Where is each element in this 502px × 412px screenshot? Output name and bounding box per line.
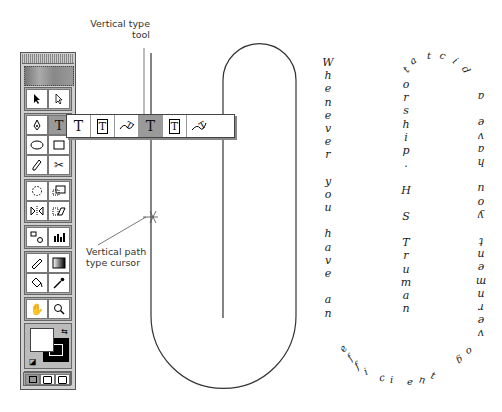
hollow-arrow-icon: [54, 93, 64, 105]
rotate-tool[interactable]: [26, 181, 48, 201]
type-tool-flyout: T T T T T T: [66, 114, 235, 138]
graph-tool[interactable]: [48, 227, 70, 247]
flyout-vertical-type-tool[interactable]: T: [139, 115, 163, 137]
arrow-icon: [32, 93, 42, 105]
color-swatches: ⇆ ◪: [24, 323, 72, 369]
ruler-icon: [30, 257, 44, 269]
drawing-group: T ✂: [24, 113, 72, 177]
flyout-vertical-area-type-tool[interactable]: T: [163, 115, 187, 137]
eyedropper-icon: [52, 277, 66, 289]
blend-icon: [30, 231, 44, 243]
pen-icon: [32, 119, 42, 131]
scissors-tool[interactable]: ✂: [48, 155, 70, 175]
direct-selection-tool[interactable]: [48, 89, 70, 109]
eyedropper-tool[interactable]: [48, 273, 70, 293]
pencil-icon: [32, 159, 42, 171]
selection-tool[interactable]: [26, 89, 48, 109]
measure-tool[interactable]: [26, 253, 48, 273]
vertical-type-icon: T: [146, 118, 155, 134]
default-colors-icon[interactable]: ◪: [29, 357, 37, 366]
type-icon: T: [55, 118, 64, 133]
full-screen-mode-button[interactable]: [55, 374, 70, 385]
app-logo: [24, 66, 74, 86]
toolbox-title-bar[interactable]: [22, 54, 74, 64]
ellipse-tool[interactable]: [26, 135, 48, 155]
path-type-icon: T: [119, 119, 135, 133]
paint-group: [24, 251, 72, 295]
scale-tool[interactable]: [48, 181, 70, 201]
svg-text:T: T: [197, 120, 207, 132]
reflect-tool[interactable]: [26, 201, 48, 221]
paint-bucket-icon: [30, 277, 44, 289]
fill-swatch[interactable]: [30, 328, 54, 352]
text-left-column: Whenever youhavean: [321, 56, 335, 320]
view-group: ✋: [24, 297, 72, 321]
gradient-tool[interactable]: [48, 253, 70, 273]
rectangle-icon: [53, 140, 65, 150]
hand-icon: ✋: [30, 303, 44, 316]
u-path[interactable]: [151, 44, 296, 389]
blend-tool[interactable]: [26, 227, 48, 247]
standard-screen-mode-button[interactable]: [25, 374, 40, 385]
swap-colors-icon[interactable]: ⇆: [61, 327, 68, 336]
paint-bucket-tool[interactable]: [26, 273, 48, 293]
shear-icon: [52, 205, 66, 217]
callout-vertical-type-tool: Vertical type tool: [88, 18, 150, 40]
toolbox-panel: T ✂: [20, 52, 76, 390]
hand-tool[interactable]: ✋: [26, 299, 48, 319]
gradient-icon: [52, 257, 66, 269]
flyout-path-type-tool[interactable]: T: [115, 115, 139, 137]
callout-leader-cursor: [98, 217, 146, 245]
zoom-tool[interactable]: [48, 299, 70, 319]
text-middle-column: orship. HSTruman: [399, 78, 413, 315]
magnifier-icon: [53, 303, 65, 315]
vertical-path-type-cursor-icon: [143, 211, 158, 223]
ellipse-icon: [30, 140, 44, 150]
blend-graph-group: [24, 225, 72, 249]
vertical-path-type-icon: T: [191, 119, 207, 133]
transform-group: [24, 179, 72, 223]
scissors-icon: ✂: [54, 158, 64, 172]
reflect-icon: [30, 205, 44, 217]
pencil-tool[interactable]: [26, 155, 48, 175]
screen-mode-group: [23, 372, 71, 386]
vertical-area-type-icon: T: [169, 119, 180, 134]
shear-tool[interactable]: [48, 201, 70, 221]
rotate-icon: [31, 185, 43, 197]
scale-icon: [52, 185, 66, 197]
flyout-area-type-tool[interactable]: T: [91, 115, 115, 137]
text-right-column-inverted: aevah uoytnemnrev: [474, 90, 488, 341]
area-type-icon: T: [97, 119, 108, 134]
flyout-type-tool[interactable]: T: [67, 115, 91, 137]
selection-group: [24, 87, 72, 111]
rectangle-tool[interactable]: [48, 135, 70, 155]
flyout-vertical-path-type-tool[interactable]: T: [187, 115, 211, 137]
bar-graph-icon: [52, 231, 66, 243]
full-menu-screen-mode-button[interactable]: [40, 374, 55, 385]
pen-tool[interactable]: [26, 115, 48, 135]
type-icon: T: [74, 118, 83, 134]
callout-vertical-path-cursor: Vertical path type cursor: [86, 246, 166, 268]
svg-text:T: T: [123, 120, 133, 132]
